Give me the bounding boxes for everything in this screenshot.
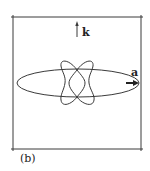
- rosette-inner-curve: [69, 70, 85, 97]
- a-vector-label: a: [131, 66, 138, 79]
- diagram-figure: k a (b): [0, 0, 150, 171]
- orbit-ellipse: [17, 69, 139, 97]
- diagram-canvas: [0, 0, 150, 171]
- rosette-curve: [61, 61, 94, 104]
- panel-label: (b): [20, 152, 36, 165]
- a-vector-arrow: [126, 80, 139, 86]
- k-vector-label: k: [82, 26, 90, 39]
- k-vector-arrow: [75, 21, 78, 37]
